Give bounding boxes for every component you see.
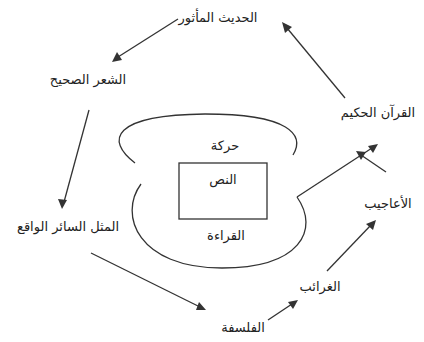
movement-loop-top xyxy=(119,114,296,163)
arrowhead-icon xyxy=(58,199,67,209)
center-box-label: النص xyxy=(209,172,236,188)
node-hadith: الحديث المأثور xyxy=(179,10,258,26)
arrowhead-icon xyxy=(288,300,298,309)
diagram-graphics xyxy=(0,0,424,342)
arrow-hadith-to-shiir xyxy=(118,19,178,57)
arrowhead-icon xyxy=(368,144,378,153)
reading-loop-bottom xyxy=(132,184,306,268)
arrow-mathal-to-falsafa xyxy=(91,253,200,307)
center-top-label: حركة xyxy=(211,138,239,154)
node-gharaib: الغرائب xyxy=(299,279,340,295)
node-shiir: الشعر الصحيح xyxy=(50,72,126,88)
arrowhead-icon xyxy=(196,302,206,310)
diagram-canvas: الحديث المأثور الشعر الصحيح القرآن الحكي… xyxy=(0,0,424,342)
node-falsafa: الفلسفة xyxy=(221,320,265,336)
node-aajib: الأعاجيب xyxy=(364,196,411,212)
arrow-falsafa-to-gharaib xyxy=(268,304,292,320)
node-mathal: المثل السائر الواقع xyxy=(17,219,119,235)
arrow-quran-to-hadith xyxy=(287,28,345,98)
arrow-loop-to-quran xyxy=(297,148,372,197)
arrow-shiir-to-mathal xyxy=(64,110,89,202)
arrow-aajib-to-quran xyxy=(361,155,386,172)
arrow-gharaib-to-aajib xyxy=(327,225,371,271)
arrowhead-icon xyxy=(112,52,122,62)
node-quran: القرآن الحكيم xyxy=(341,105,415,121)
center-bottom-label: القراءة xyxy=(207,228,245,244)
